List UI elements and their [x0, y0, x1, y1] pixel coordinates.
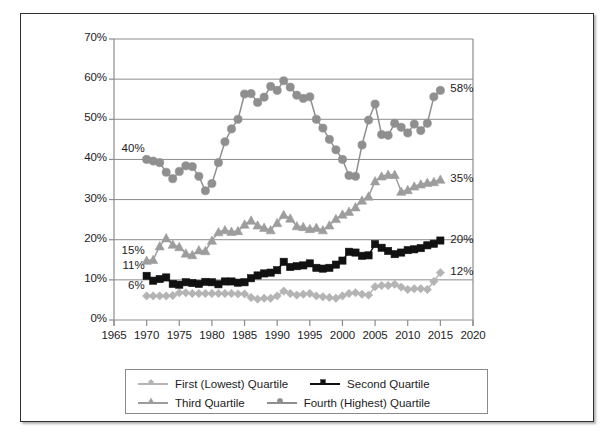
data-point: [169, 175, 177, 183]
legend-swatch-triangle-icon: [138, 396, 168, 410]
data-point: [221, 138, 229, 146]
data-point: [234, 115, 242, 123]
data-point: [287, 263, 294, 270]
data-point: [182, 279, 189, 286]
data-point: [195, 280, 202, 287]
data-point: [351, 289, 359, 297]
series-start-annotation: 40%: [107, 142, 145, 154]
data-point: [332, 261, 339, 268]
data-point: [345, 248, 352, 255]
data-point: [436, 175, 445, 183]
y-axis-tick-label: 30%: [51, 192, 107, 204]
data-point: [234, 279, 241, 286]
y-axis-tick-label: 0%: [51, 312, 107, 324]
data-point: [423, 119, 431, 127]
data-point: [208, 179, 216, 187]
data-point: [280, 258, 287, 265]
legend-swatch-circle-icon: [267, 396, 297, 410]
series-end-annotation: 35%: [450, 172, 473, 184]
data-point: [267, 269, 274, 276]
data-point: [279, 210, 288, 218]
data-point: [260, 93, 268, 101]
data-point: [352, 249, 359, 256]
series-3: [143, 77, 445, 195]
data-point: [280, 77, 288, 85]
legend-item-second-quartile[interactable]: Second Quartile: [310, 375, 429, 393]
series-start-annotation: 6%: [107, 279, 145, 291]
legend-label-fourth-highest-quartile: Fourth (Highest) Quartile: [304, 397, 431, 409]
data-point: [417, 126, 425, 134]
data-point: [169, 280, 176, 287]
data-point: [156, 159, 164, 167]
series-1: [143, 237, 444, 288]
data-point: [162, 168, 170, 176]
series-start-annotation: 11%: [107, 259, 145, 271]
data-point: [338, 155, 346, 163]
chart-legend: First (Lowest) Quartile Second Quartile …: [125, 369, 488, 414]
data-point: [176, 281, 183, 288]
data-point: [247, 275, 254, 282]
data-point: [411, 246, 418, 253]
data-point: [325, 135, 333, 143]
data-point: [319, 124, 327, 132]
data-point: [221, 278, 228, 285]
data-point: [437, 237, 444, 244]
data-point: [273, 86, 281, 94]
data-point: [306, 93, 314, 101]
data-point: [312, 115, 320, 123]
data-point: [149, 255, 158, 263]
legend-swatch-square-icon: [310, 377, 340, 391]
data-point: [300, 262, 307, 269]
legend-item-fourth-highest-quartile[interactable]: Fourth (Highest) Quartile: [267, 394, 431, 412]
data-point: [430, 93, 438, 101]
legend-row-2: Third Quartile Fourth (Highest) Quartile: [138, 394, 430, 412]
data-point: [430, 240, 437, 247]
data-point: [188, 163, 196, 171]
data-point: [163, 274, 170, 281]
data-point: [404, 247, 411, 254]
legend-row-1: First (Lowest) Quartile Second Quartile: [138, 375, 430, 393]
data-point: [410, 120, 418, 128]
data-point: [424, 242, 431, 249]
data-point: [201, 187, 209, 195]
line-chart-canvas: [21, 14, 595, 423]
legend-swatch-diamond-icon: [138, 377, 168, 391]
legend-label-second-quartile: Second Quartile: [347, 378, 429, 390]
data-point: [326, 264, 333, 271]
data-point: [371, 100, 379, 108]
data-point: [293, 263, 300, 270]
data-point: [332, 146, 340, 154]
data-point: [195, 172, 203, 180]
data-point: [378, 244, 385, 251]
data-point: [313, 264, 320, 271]
data-point: [385, 247, 392, 254]
data-point: [404, 129, 412, 137]
data-point: [371, 241, 378, 248]
data-point: [241, 279, 248, 286]
data-point: [384, 131, 392, 139]
data-point: [365, 252, 372, 259]
data-point: [358, 252, 365, 259]
data-point: [228, 278, 235, 285]
data-point: [175, 167, 183, 175]
series-end-annotation: 12%: [450, 265, 473, 277]
y-axis-tick-label: 10%: [51, 272, 107, 284]
data-point: [227, 125, 235, 133]
data-point: [417, 245, 424, 252]
legend-item-third-quartile[interactable]: Third Quartile: [138, 394, 245, 412]
legend-item-first-lowest-quartile[interactable]: First (Lowest) Quartile: [138, 375, 288, 393]
x-axis-tick-label: 2020: [443, 329, 503, 341]
data-point: [214, 159, 222, 167]
data-point: [261, 270, 268, 277]
data-point: [208, 279, 215, 286]
data-point: [358, 141, 366, 149]
chart-figure-frame: 0%10%20%30%40%50%60%70%19651970197519801…: [20, 13, 594, 422]
data-point: [247, 89, 255, 97]
data-point: [397, 123, 405, 131]
series-end-annotation: 58%: [450, 82, 473, 94]
data-point: [286, 83, 294, 91]
y-axis-tick-label: 40%: [51, 151, 107, 163]
data-point: [339, 257, 346, 264]
y-axis-tick-label: 60%: [51, 71, 107, 83]
data-point: [384, 281, 392, 289]
